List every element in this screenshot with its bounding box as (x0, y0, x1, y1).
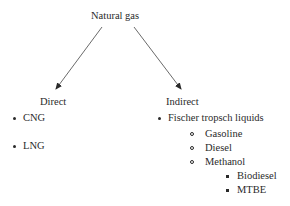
item-mtbe: MTBE (237, 184, 266, 196)
circle-bullet-icon (190, 146, 194, 150)
bullet-icon (158, 117, 161, 120)
square-bullet-icon (226, 189, 229, 192)
branch-indirect: Indirect (166, 96, 199, 108)
arrow-to-direct (56, 27, 102, 89)
square-bullet-icon (226, 175, 229, 178)
bullet-icon (13, 117, 16, 120)
item-diesel: Diesel (205, 142, 232, 154)
circle-bullet-icon (190, 160, 194, 164)
item-lng: LNG (23, 140, 45, 152)
root-node: Natural gas (91, 10, 139, 22)
branch-direct: Direct (40, 96, 66, 108)
item-cng: CNG (23, 112, 45, 124)
arrow-to-indirect (134, 27, 181, 89)
item-biodiesel: Biodiesel (237, 170, 277, 182)
item-gasoline: Gasoline (205, 128, 242, 140)
item-methanol: Methanol (205, 156, 245, 168)
circle-bullet-icon (190, 132, 194, 136)
item-fischer-tropsch: Fischer tropsch liquids (168, 112, 264, 124)
bullet-icon (13, 145, 16, 148)
